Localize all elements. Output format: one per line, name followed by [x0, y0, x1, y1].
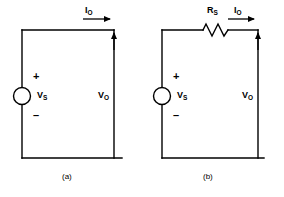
series-resistor-b-label: RS	[207, 6, 218, 15]
voltage-source-a-minus-sign: –	[33, 110, 39, 121]
voltage-source-b-symbol	[154, 88, 171, 105]
circuit-a-group	[14, 19, 123, 158]
series-resistor-b-symbol	[203, 24, 228, 36]
circuit-figure: IO + VS – VO (a) RS IO + VS – VO (b)	[0, 0, 284, 197]
voltage-source-b-label: VS	[177, 91, 187, 100]
output-current-a-label: IO	[85, 6, 93, 15]
output-current-b-label: IO	[234, 6, 242, 15]
voltage-source-a-plus-sign: +	[33, 71, 39, 82]
output-voltage-a-label: VO	[98, 91, 109, 100]
voltage-source-b-minus-sign: –	[173, 110, 179, 121]
circuit-b-caption: (b)	[203, 173, 213, 181]
voltage-source-a-symbol	[14, 88, 31, 105]
circuit-b-group	[154, 19, 265, 158]
voltage-source-b-plus-sign: +	[173, 71, 179, 82]
voltage-source-a-label: VS	[37, 91, 47, 100]
circuit-a-caption: (a)	[62, 173, 72, 181]
output-voltage-b-label: VO	[242, 91, 253, 100]
